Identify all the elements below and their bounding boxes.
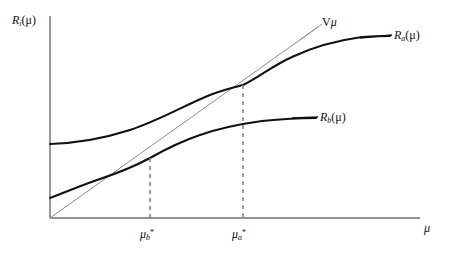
v-mu-label: Vμ	[322, 16, 337, 28]
curve-rb-label-arg: (μ)	[331, 110, 345, 124]
curve-ra-label: Ra(μ)	[394, 29, 420, 43]
leader-rb	[292, 117, 318, 118]
tick-label-mu-a: μa*	[232, 228, 246, 242]
v-mu-label-base: V	[322, 15, 331, 29]
x-axis-label-text: μ	[424, 221, 430, 235]
y-axis-label-arg: (μ)	[22, 13, 36, 27]
v-mu-label-arg: μ	[331, 15, 337, 29]
figure-canvas: Ri(μ) μ Vμ Ra(μ) Rb(μ) μb* μa*	[0, 0, 453, 257]
curve-ra	[50, 36, 390, 144]
curve-rb-label: Rb(μ)	[320, 111, 346, 125]
curve-ra-label-arg: (μ)	[405, 28, 419, 42]
y-axis-label: Ri(μ)	[12, 14, 36, 28]
plot-svg	[0, 0, 453, 257]
tick-label-mu-a-superscript: *	[242, 228, 246, 237]
curve-rb	[50, 118, 316, 198]
tick-label-mu-b: μb*	[140, 228, 154, 242]
tick-label-mu-b-superscript: *	[150, 228, 154, 237]
v-mu-line	[50, 27, 318, 218]
leader-v-mu	[300, 24, 322, 40]
x-axis-label: μ	[424, 222, 430, 234]
